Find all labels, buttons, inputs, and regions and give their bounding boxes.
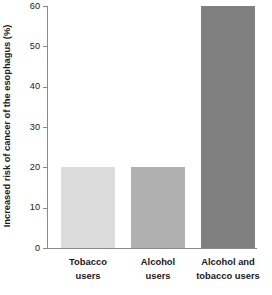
category-label-1: Alcoholusers (118, 255, 198, 282)
category-label-line: users (48, 269, 128, 283)
plot-area: 0102030405060 TobaccousersAlcoholusersAl… (47, 6, 257, 249)
y-tick-label-50: 50 (30, 40, 40, 53)
bar-1 (131, 167, 185, 248)
y-tick-label-30: 30 (30, 121, 40, 134)
category-label-line: users (118, 269, 198, 283)
category-label-line: Alcohol (118, 255, 198, 269)
y-axis-line (47, 6, 48, 249)
y-tick-30: 30 (43, 127, 47, 128)
category-label-line: Alcohol and (188, 255, 268, 269)
y-tick-50: 50 (43, 46, 47, 47)
y-tick-60: 60 (43, 6, 47, 7)
y-axis-title: Increased risk of cancer of the esophagu… (0, 0, 14, 252)
y-tick-label-10: 10 (30, 201, 40, 214)
bar-0 (61, 167, 115, 248)
category-label-2: Alcohol andtobacco users (188, 255, 268, 282)
y-tick-label-60: 60 (30, 0, 40, 13)
bar-chart-figure: Increased risk of cancer of the esophagu… (0, 0, 272, 295)
y-tick-0: 0 (43, 248, 47, 249)
x-axis-line (47, 248, 257, 249)
category-label-0: Tobaccousers (48, 255, 128, 282)
y-tick-40: 40 (43, 87, 47, 88)
y-tick-label-40: 40 (30, 80, 40, 93)
y-tick-10: 10 (43, 208, 47, 209)
category-label-line: tobacco users (188, 269, 268, 283)
y-tick-label-20: 20 (30, 161, 40, 174)
category-label-line: Tobacco (48, 255, 128, 269)
bar-2 (201, 6, 255, 248)
y-tick-label-0: 0 (35, 242, 40, 255)
y-tick-20: 20 (43, 167, 47, 168)
